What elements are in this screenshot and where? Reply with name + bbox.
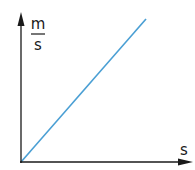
y-axis-arrow-icon — [18, 12, 25, 26]
y-axis-label: m s — [31, 15, 46, 54]
velocity-time-graph: m s s — [0, 0, 195, 170]
y-label-denominator: s — [34, 36, 42, 54]
y-label-numerator: m — [31, 15, 46, 33]
x-axis-arrow-icon — [178, 159, 193, 166]
x-axis-label: s — [180, 141, 188, 159]
y-axis — [18, 12, 25, 163]
x-axis — [20, 159, 193, 166]
